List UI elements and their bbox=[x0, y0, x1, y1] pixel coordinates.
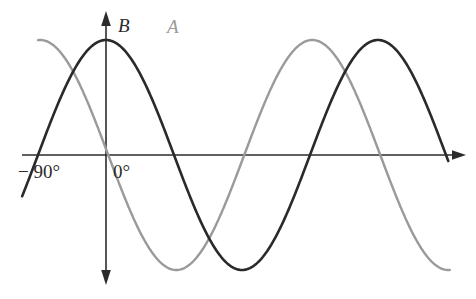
curve-b-label: B bbox=[118, 15, 130, 36]
x-tick-label-zero: 0° bbox=[113, 161, 130, 182]
vertical-axis-up-arrow-icon bbox=[101, 11, 111, 26]
vertical-axis-down-arrow-icon bbox=[101, 270, 111, 285]
horizontal-axis-arrow-icon bbox=[452, 150, 466, 160]
sine-wave-plot: B A − 90° 0° bbox=[0, 0, 476, 299]
waveform-figure: B A − 90° 0° bbox=[0, 0, 476, 299]
x-tick-label-minus-90: − 90° bbox=[18, 161, 60, 182]
curve-a-label: A bbox=[165, 16, 179, 37]
